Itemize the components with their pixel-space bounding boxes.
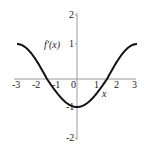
chart: 2 1 -1 -2 -3 -2 -1 0 1 2 3 f'(x) x: [0, 0, 144, 151]
y-tick-neg2: -2: [66, 132, 74, 143]
x-ticks: -3 -2 -1 0 1 2 3: [12, 79, 137, 90]
x-tick-neg3: -3: [12, 79, 20, 90]
y-axis-label: f'(x): [44, 39, 61, 51]
x-tick-2: 2: [114, 79, 119, 90]
x-tick-3: 3: [132, 79, 137, 90]
y-tick-1: 1: [69, 38, 74, 49]
y-tick-2: 2: [69, 9, 74, 20]
x-tick-1: 1: [94, 79, 99, 90]
x-tick-0: 0: [71, 79, 76, 90]
x-tick-neg2: -2: [32, 79, 40, 90]
y-ticks: 2 1 -1 -2: [66, 9, 77, 143]
x-axis-label: x: [101, 88, 107, 99]
